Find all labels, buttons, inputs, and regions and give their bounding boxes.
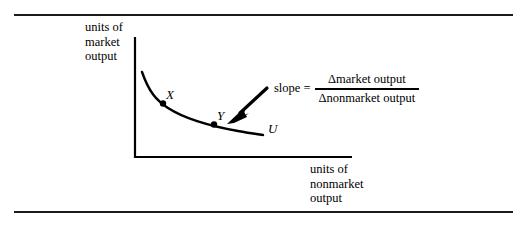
y-axis-label-line-1: units of [85, 20, 123, 35]
y-axis-label-line-3: output [85, 49, 123, 64]
slope-equation-lhs: slope = [274, 81, 315, 96]
plot-canvas [0, 0, 527, 227]
y-axis-label-line-2: market [85, 35, 123, 50]
x-axis-label: units of nonmarket output [310, 162, 363, 206]
x-axis-label-line-2: nonmarket [310, 177, 363, 192]
slope-fraction-bar [315, 88, 420, 90]
y-axis-label: units of market output [85, 20, 123, 64]
point-y-label: Y [217, 109, 224, 122]
x-axis-label-line-1: units of [310, 162, 363, 177]
bottom-rule [14, 211, 513, 213]
slope-fraction-numerator: Δmarket output [324, 72, 410, 87]
slope-equation: slope = Δmarket output Δnonmarket output [274, 72, 419, 106]
slope-fraction-denominator: Δnonmarket output [315, 91, 420, 106]
curve-label-u: U [268, 122, 277, 135]
x-axis-label-line-3: output [310, 191, 363, 206]
slope-annotation-arrow [227, 88, 267, 124]
slope-fraction: Δmarket output Δnonmarket output [315, 72, 420, 106]
point-x-label: X [166, 88, 174, 101]
indifference-curve-figure: units of market output units of nonmarke… [0, 0, 527, 227]
